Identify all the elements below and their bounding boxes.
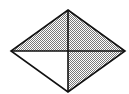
rhombus-svg	[0, 0, 129, 94]
rhombus-diagram	[0, 0, 129, 94]
